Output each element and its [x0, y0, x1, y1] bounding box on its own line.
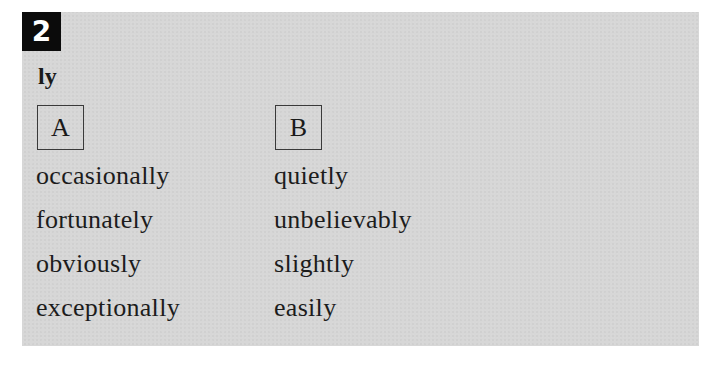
word-item: exceptionally — [36, 286, 180, 330]
word-item: obviously — [36, 242, 180, 286]
column-b-word-list: quietly unbelievably slightly easily — [274, 154, 412, 330]
word-item: fortunately — [36, 198, 180, 242]
suffix-label: ly — [38, 62, 57, 90]
column-b: B quietly unbelievably slightly easily — [274, 105, 412, 330]
word-item: unbelievably — [274, 198, 412, 242]
column-a-header: A — [37, 105, 84, 150]
exercise-number-badge: 2 — [22, 12, 61, 51]
column-b-header: B — [275, 105, 322, 150]
word-item: occasionally — [36, 154, 180, 198]
column-a: A occasionally fortunately obviously exc… — [36, 105, 180, 330]
exercise-panel: 2 ly A occasionally fortunately obviousl… — [22, 12, 699, 346]
word-item: quietly — [274, 154, 412, 198]
word-item: slightly — [274, 242, 412, 286]
word-item: easily — [274, 286, 412, 330]
column-a-word-list: occasionally fortunately obviously excep… — [36, 154, 180, 330]
